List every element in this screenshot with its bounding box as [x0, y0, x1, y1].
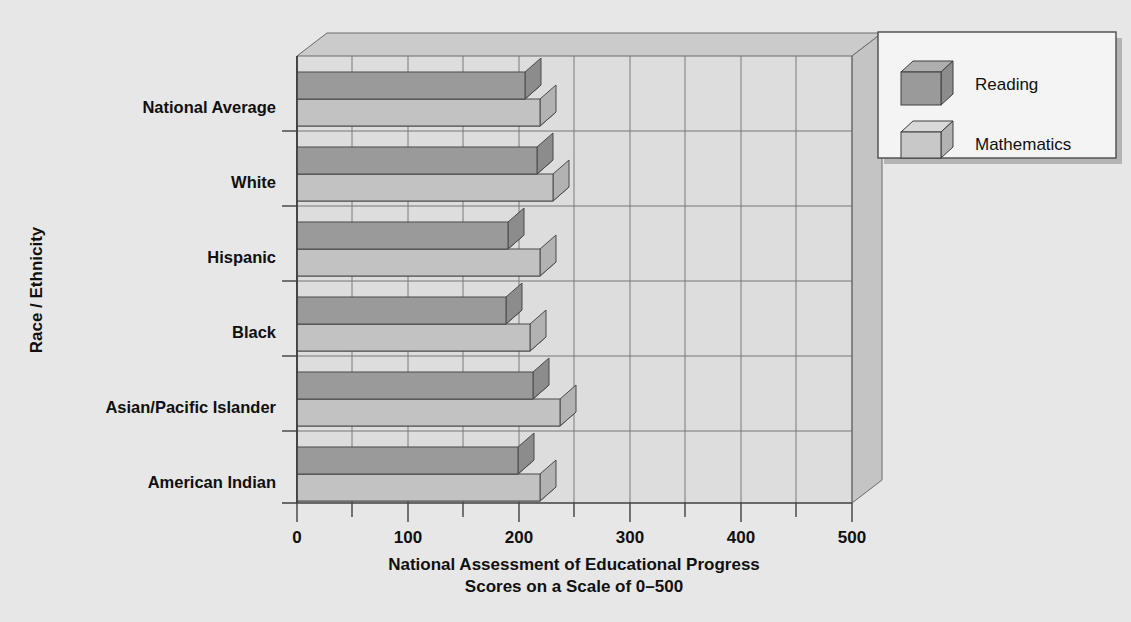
category-label-hispanic: Hispanic [207, 248, 276, 266]
x-tick-label-200: 200 [505, 528, 533, 547]
category-label-american-indian: American Indian [148, 473, 276, 491]
y-axis-title: Race / Ethnicity [27, 226, 46, 353]
x-axis-title-line1: National Assessment of Educational Progr… [388, 555, 760, 574]
x-tick-label-500: 500 [838, 528, 866, 547]
x-tick-label-300: 300 [616, 528, 644, 547]
legend-label-reading: Reading [975, 75, 1038, 94]
x-tick-label-100: 100 [394, 528, 422, 547]
category-label-white: White [231, 173, 276, 191]
x-axis-title-line2: Scores on a Scale of 0–500 [465, 577, 683, 596]
mathematics-swatch [901, 121, 953, 158]
legend: Reading Mathematics [878, 32, 1122, 164]
category-label-asian-pacific-islander: Asian/Pacific Islander [105, 398, 276, 416]
x-tick-label-0: 0 [292, 528, 301, 547]
reading-swatch [901, 61, 953, 105]
bar-chart: 0 100 200 300 400 500 National Assessmen… [0, 0, 1131, 622]
chart-svg: 0 100 200 300 400 500 National Assessmen… [0, 0, 1131, 622]
x-tick-label-400: 400 [727, 528, 755, 547]
legend-label-mathematics: Mathematics [975, 135, 1071, 154]
category-label-national-average: National Average [142, 98, 276, 116]
category-label-black: Black [232, 323, 277, 341]
plot-top-face [297, 33, 882, 56]
